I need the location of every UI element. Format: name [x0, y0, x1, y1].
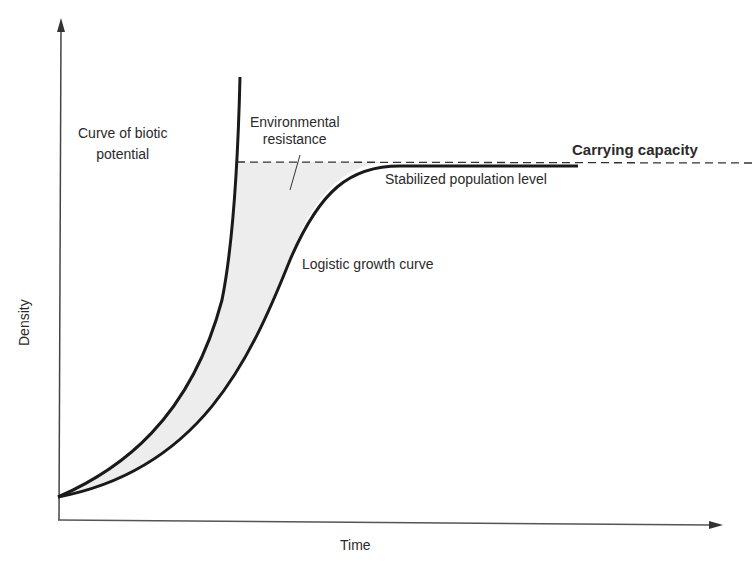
biotic-label-line1: Curve of biotic [78, 125, 167, 142]
logistic-growth-label: Logistic growth curve [302, 256, 434, 273]
y-axis-arrow-icon [57, 18, 65, 32]
biotic-label-line2: potential [78, 146, 167, 163]
x-axis [58, 520, 712, 525]
y-axis-label: Density [16, 299, 32, 346]
environmental-resistance-area [58, 162, 385, 497]
environmental-resistance-label: Environmental resistance [250, 114, 340, 148]
x-axis-arrow-icon [709, 521, 723, 529]
growth-diagram [0, 0, 753, 573]
env-label-line2: resistance [250, 131, 340, 148]
env-label-line1: Environmental [250, 114, 340, 131]
stabilized-population-label: Stabilized population level [385, 171, 547, 188]
y-axis [59, 28, 61, 520]
carrying-capacity-label: Carrying capacity [572, 141, 698, 158]
biotic-potential-label: Curve of biotic potential [78, 125, 167, 163]
x-axis-label: Time [340, 537, 371, 554]
